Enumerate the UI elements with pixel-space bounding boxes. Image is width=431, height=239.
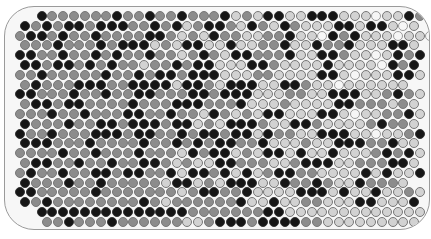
board-cell[interactable] [145, 89, 155, 99]
board-cell[interactable] [388, 119, 398, 129]
board-cell[interactable] [69, 148, 79, 158]
board-cell[interactable] [231, 187, 241, 197]
board-cell[interactable] [334, 60, 344, 70]
board-cell[interactable] [350, 109, 360, 119]
board-cell[interactable] [371, 168, 381, 178]
board-cell[interactable] [382, 50, 392, 60]
board-cell[interactable] [280, 40, 290, 50]
board-cell[interactable] [172, 99, 182, 109]
board-cell[interactable] [258, 60, 268, 70]
board-cell[interactable] [220, 89, 230, 99]
board-cell[interactable] [145, 148, 155, 158]
board-cell[interactable] [91, 89, 101, 99]
board-cell[interactable] [101, 129, 111, 139]
board-cell[interactable] [150, 119, 160, 129]
board-cell[interactable] [371, 31, 381, 41]
board-cell[interactable] [404, 109, 414, 119]
board-cell[interactable] [37, 89, 47, 99]
board-cell[interactable] [388, 178, 398, 188]
board-cell[interactable] [220, 11, 230, 21]
board-cell[interactable] [145, 70, 155, 80]
board-cell[interactable] [161, 217, 171, 227]
board-cell[interactable] [280, 138, 290, 148]
board-cell[interactable] [74, 21, 84, 31]
board-cell[interactable] [85, 40, 95, 50]
board-cell[interactable] [290, 99, 300, 109]
board-cell[interactable] [204, 80, 214, 90]
board-cell[interactable] [69, 109, 79, 119]
board-cell[interactable] [263, 109, 273, 119]
board-cell[interactable] [182, 138, 192, 148]
board-cell[interactable] [355, 119, 365, 129]
board-cell[interactable] [328, 31, 338, 41]
board-cell[interactable] [339, 148, 349, 158]
board-cell[interactable] [355, 178, 365, 188]
board-cell[interactable] [409, 119, 419, 129]
board-cell[interactable] [42, 21, 52, 31]
board-cell[interactable] [155, 109, 165, 119]
board-cell[interactable] [74, 158, 84, 168]
board-cell[interactable] [242, 89, 252, 99]
board-cell[interactable] [69, 129, 79, 139]
board-cell[interactable] [323, 60, 333, 70]
board-cell[interactable] [377, 138, 387, 148]
board-cell[interactable] [161, 178, 171, 188]
board-cell[interactable] [123, 109, 133, 119]
board-cell[interactable] [231, 11, 241, 21]
board-cell[interactable] [134, 148, 144, 158]
board-cell[interactable] [317, 31, 327, 41]
board-cell[interactable] [312, 138, 322, 148]
board-cell[interactable] [253, 168, 263, 178]
board-cell[interactable] [328, 129, 338, 139]
board-cell[interactable] [80, 11, 90, 21]
board-cell[interactable] [188, 11, 198, 21]
board-cell[interactable] [64, 119, 74, 129]
board-cell[interactable] [182, 217, 192, 227]
board-cell[interactable] [398, 197, 408, 207]
board-cell[interactable] [242, 109, 252, 119]
board-cell[interactable] [47, 187, 57, 197]
board-cell[interactable] [361, 207, 371, 217]
board-cell[interactable] [301, 158, 311, 168]
board-cell[interactable] [64, 40, 74, 50]
board-cell[interactable] [118, 197, 128, 207]
board-cell[interactable] [80, 187, 90, 197]
board-cell[interactable] [307, 11, 317, 21]
board-cell[interactable] [344, 178, 354, 188]
board-cell[interactable] [123, 50, 133, 60]
board-cell[interactable] [382, 207, 392, 217]
board-cell[interactable] [301, 138, 311, 148]
board-cell[interactable] [96, 21, 106, 31]
board-cell[interactable] [415, 129, 425, 139]
board-cell[interactable] [112, 70, 122, 80]
board-cell[interactable] [393, 148, 403, 158]
board-cell[interactable] [404, 148, 414, 158]
board-cell[interactable] [344, 21, 354, 31]
board-cell[interactable] [209, 70, 219, 80]
board-cell[interactable] [188, 168, 198, 178]
board-cell[interactable] [377, 119, 387, 129]
board-cell[interactable] [204, 197, 214, 207]
board-cell[interactable] [58, 187, 68, 197]
board-cell[interactable] [199, 109, 209, 119]
board-cell[interactable] [366, 99, 376, 109]
board-cell[interactable] [296, 31, 306, 41]
board-cell[interactable] [312, 158, 322, 168]
board-cell[interactable] [177, 109, 187, 119]
board-cell[interactable] [317, 50, 327, 60]
board-cell[interactable] [15, 31, 25, 41]
board-cell[interactable] [172, 197, 182, 207]
board-cell[interactable] [296, 207, 306, 217]
board-cell[interactable] [118, 158, 128, 168]
board-cell[interactable] [361, 31, 371, 41]
board-cell[interactable] [112, 129, 122, 139]
board-cell[interactable] [199, 207, 209, 217]
board-cell[interactable] [134, 109, 144, 119]
board-cell[interactable] [193, 217, 203, 227]
board-cell[interactable] [118, 99, 128, 109]
board-cell[interactable] [285, 50, 295, 60]
board-cell[interactable] [323, 80, 333, 90]
board-cell[interactable] [139, 119, 149, 129]
board-cell[interactable] [150, 60, 160, 70]
board-cell[interactable] [139, 158, 149, 168]
